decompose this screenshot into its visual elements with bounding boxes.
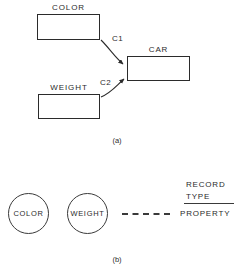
node-label-color: COLOR [13, 209, 43, 218]
legend-underline [184, 203, 234, 204]
panel-b: COLOR WEIGHT RECORD TYPE PROPERTY (b) [0, 0, 236, 272]
legend-dashed-line [122, 213, 170, 215]
legend-property: PROPERTY [180, 209, 230, 218]
node-circle-color[interactable]: COLOR [8, 193, 49, 234]
node-circle-weight[interactable]: WEIGHT [67, 193, 108, 234]
legend-record-type-line1: RECORD [186, 180, 225, 189]
legend-record-type-line2: TYPE [186, 192, 210, 201]
figure-canvas: COLOR WEIGHT CAR C1 C2 (a) COLOR [0, 0, 236, 272]
caption-panel-b: (b) [97, 255, 137, 264]
node-label-weight: WEIGHT [70, 209, 104, 218]
